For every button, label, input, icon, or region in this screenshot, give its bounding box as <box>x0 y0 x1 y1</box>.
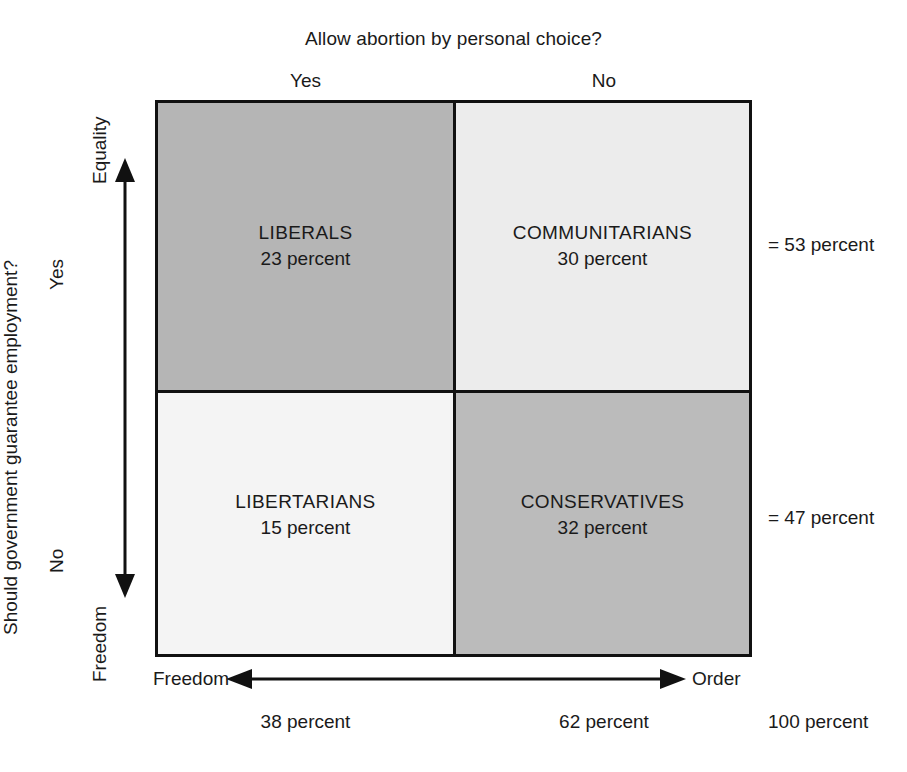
column-header-no: No <box>456 70 752 92</box>
quadrant-liberals-label: LIBERALS <box>258 222 352 244</box>
row-label-no: No <box>46 549 68 573</box>
row-total-bottom: = 47 percent <box>768 507 874 529</box>
y-axis-top-endpoint-label: Equality <box>89 116 111 184</box>
quadrant-conservatives[interactable]: CONSERVATIVES 32 percent <box>456 393 749 654</box>
column-total-left: 38 percent <box>155 711 456 733</box>
quadrant-libertarians[interactable]: LIBERTARIANS 15 percent <box>158 393 456 654</box>
page-title: Allow abortion by personal choice? <box>155 28 752 50</box>
horizontal-double-arrow-icon <box>226 666 686 692</box>
quadrant-libertarians-value: 15 percent <box>261 517 351 539</box>
quadrant-communitarians-label: COMMUNITARIANS <box>513 222 692 244</box>
vertical-double-arrow-icon <box>112 158 138 598</box>
quadrant-liberals-value: 23 percent <box>261 248 351 270</box>
y-axis-title: Should government guarantee employment? <box>0 260 22 635</box>
quadrant-conservatives-value: 32 percent <box>558 517 648 539</box>
y-axis-bottom-endpoint-label: Freedom <box>89 606 111 682</box>
grand-total: 100 percent <box>768 711 868 733</box>
row-total-top: = 53 percent <box>768 234 874 256</box>
quadrant-conservatives-label: CONSERVATIVES <box>521 491 685 513</box>
quadrant-libertarians-label: LIBERTARIANS <box>235 491 375 513</box>
x-axis-right-endpoint-label: Order <box>692 668 741 690</box>
quadrant-matrix: LIBERALS 23 percent COMMUNITARIANS 30 pe… <box>155 100 752 657</box>
column-header-yes: Yes <box>155 70 456 92</box>
x-axis-left-endpoint-label: Freedom <box>153 668 229 690</box>
quadrant-liberals[interactable]: LIBERALS 23 percent <box>158 103 456 393</box>
column-total-right: 62 percent <box>456 711 752 733</box>
quadrant-communitarians-value: 30 percent <box>558 248 648 270</box>
row-label-yes: Yes <box>46 259 68 290</box>
quadrant-communitarians[interactable]: COMMUNITARIANS 30 percent <box>456 103 749 393</box>
